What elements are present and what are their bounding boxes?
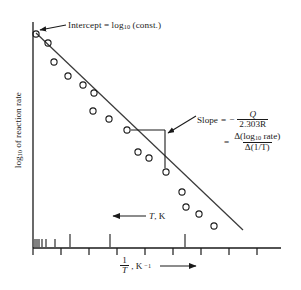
annotation-leaders: [40, 25, 196, 266]
slope-label: Slope: [197, 115, 218, 125]
slope-equation-row-1: Slope = − Q 2.303R: [197, 110, 282, 129]
intercept-prefix: Intercept = log: [68, 20, 124, 30]
slope-fraction-1: Q 2.303R: [237, 110, 268, 129]
slope-annotation: Slope = − Q 2.303R = Δ(log10 rate) Δ(1/T…: [197, 110, 282, 152]
data-point-2: [51, 59, 57, 65]
data-point-4: [80, 82, 86, 88]
slope-equals-2: =: [224, 137, 229, 147]
data-point-8: [124, 127, 130, 133]
data-point-7: [106, 116, 112, 122]
slope-minus-sign: −: [229, 115, 234, 125]
x-axis-label-numerator: 1: [120, 256, 129, 265]
y-axis-label: log10 of reaction rate: [13, 65, 23, 195]
arrhenius-plot-figure: Intercept = log10 (const.) log10 of reac…: [0, 0, 301, 290]
temperature-unit: , K: [154, 211, 165, 221]
slope-numerator-q: Q: [247, 110, 258, 119]
temperature-axis-annotation: T, K: [149, 211, 165, 221]
slope-equals: =: [221, 115, 226, 125]
data-point-0: [33, 31, 39, 37]
reciprocal-temperature-fraction: 1 T: [120, 256, 129, 275]
x-axis-label-denominator: T: [120, 265, 129, 275]
data-points: [33, 31, 217, 229]
slope-equation-row-2: = Δ(log10 rate) Δ(1/T): [197, 132, 282, 152]
slope-fraction-2: Δ(log10 rate) Δ(1/T): [232, 132, 282, 152]
data-point-5: [91, 90, 97, 96]
data-point-14: [196, 211, 202, 217]
y-axis-label-suffix: of reaction rate: [13, 92, 23, 150]
slope-denominator-delta-inv-t: Δ(1/T): [243, 142, 272, 152]
y-axis-label-subscript: 10: [16, 150, 23, 156]
intercept-suffix: (const.): [130, 20, 161, 30]
reciprocal-temperature-ticks: [33, 248, 257, 255]
y-axis-label-prefix: log: [13, 156, 23, 168]
data-point-15: [211, 223, 217, 229]
data-point-10: [146, 155, 152, 161]
slope-denominator-2303r: 2.303R: [237, 119, 268, 129]
x-axis-label: 1 T , K−1: [120, 256, 151, 275]
data-point-11: [163, 169, 169, 175]
data-point-9: [135, 149, 141, 155]
data-point-3: [65, 73, 71, 79]
intercept-leader-line: [40, 25, 66, 30]
x-axis-unit-exponent: −1: [144, 262, 151, 269]
data-point-6: [90, 108, 96, 114]
slope-numerator-delta-log-rate: Δ(log10 rate): [232, 132, 282, 142]
slope-leader-line: [168, 116, 196, 133]
temperature-scale-ticks: [35, 234, 185, 247]
data-point-12: [179, 189, 185, 195]
data-point-13: [183, 204, 189, 210]
intercept-annotation: Intercept = log10 (const.): [68, 20, 161, 30]
x-axis-unit: , K: [131, 261, 142, 271]
